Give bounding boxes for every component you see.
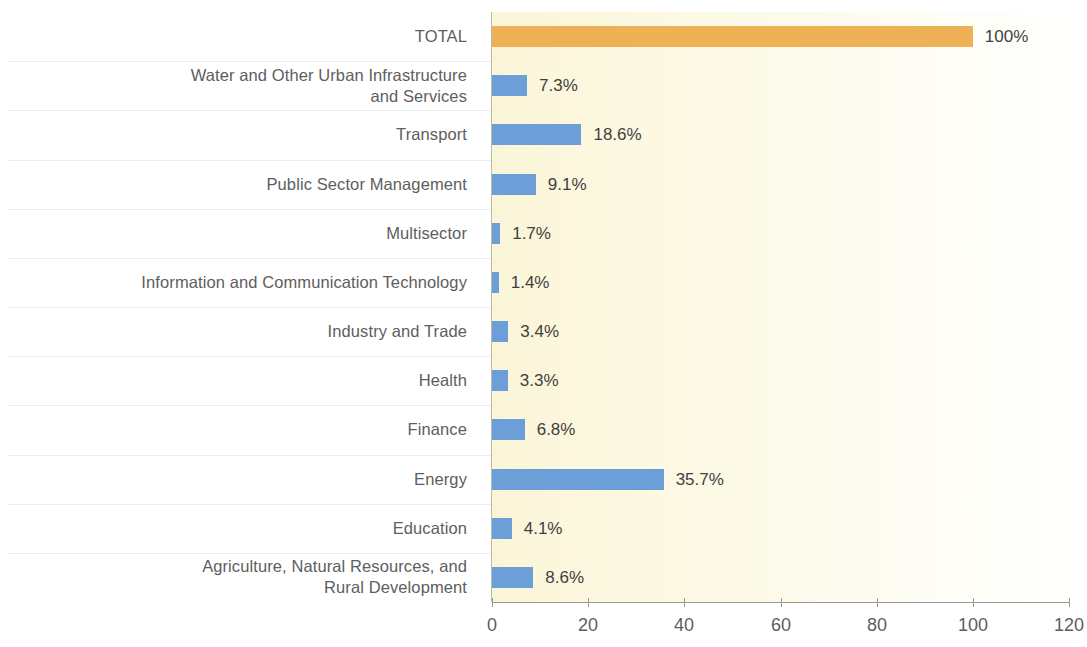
category-label: Energy [7, 469, 467, 490]
x-axis-tick-label: 20 [558, 615, 618, 636]
bar-total [492, 26, 973, 47]
bar-value-label: 8.6% [545, 567, 584, 588]
x-axis-tick-label: 60 [751, 615, 811, 636]
category-label: Information and Communication Technology [7, 272, 467, 293]
x-axis-tick [781, 598, 782, 607]
bar-value-label: 6.8% [537, 419, 576, 440]
bar-value-label: 9.1% [548, 174, 587, 195]
x-axis-tick [492, 598, 493, 607]
category-label: Education [7, 518, 467, 539]
x-axis-tick-label: 0 [462, 615, 522, 636]
y-axis-line [491, 12, 492, 602]
x-axis-tick-label: 80 [847, 615, 907, 636]
bar-value-label: 35.7% [676, 469, 724, 490]
bar-sector [492, 321, 508, 342]
bar-value-label: 4.1% [524, 518, 563, 539]
plot-area [492, 12, 1069, 602]
x-axis-tick-label: 40 [654, 615, 714, 636]
bar-value-label: 7.3% [539, 75, 578, 96]
bar-value-label: 3.4% [520, 321, 559, 342]
bar-sector [492, 567, 533, 588]
x-axis-tick [1069, 598, 1070, 607]
category-label: Finance [7, 419, 467, 440]
bar-value-label: 100% [985, 26, 1028, 47]
bar-value-label: 1.7% [512, 223, 551, 244]
bar-sector [492, 223, 500, 244]
bar-sector [492, 518, 512, 539]
bar-sector [492, 370, 508, 391]
category-label: Industry and Trade [7, 321, 467, 342]
category-label: Public Sector Management [7, 174, 467, 195]
bar-sector [492, 272, 499, 293]
bar-sector [492, 419, 525, 440]
x-axis-tick [588, 598, 589, 607]
category-label: Water and Other Urban Infrastructure and… [7, 65, 467, 107]
x-axis-tick-label: 100 [943, 615, 1003, 636]
category-label: TOTAL [7, 26, 467, 47]
category-label: Transport [7, 124, 467, 145]
horizontal-bar-chart: TOTAL100%Water and Other Urban Infrastru… [0, 0, 1087, 647]
bar-value-label: 18.6% [593, 124, 641, 145]
bar-sector [492, 469, 664, 490]
x-axis-tick [973, 598, 974, 607]
x-axis-tick [684, 598, 685, 607]
category-label: Agriculture, Natural Resources, and Rura… [7, 556, 467, 598]
bar-value-label: 1.4% [511, 272, 550, 293]
bar-sector [492, 75, 527, 96]
bar-sector [492, 124, 581, 145]
x-axis-tick-label: 120 [1039, 615, 1087, 636]
bar-sector [492, 174, 536, 195]
bar-value-label: 3.3% [520, 370, 559, 391]
category-label: Health [7, 370, 467, 391]
category-label: Multisector [7, 223, 467, 244]
x-axis-tick [877, 598, 878, 607]
